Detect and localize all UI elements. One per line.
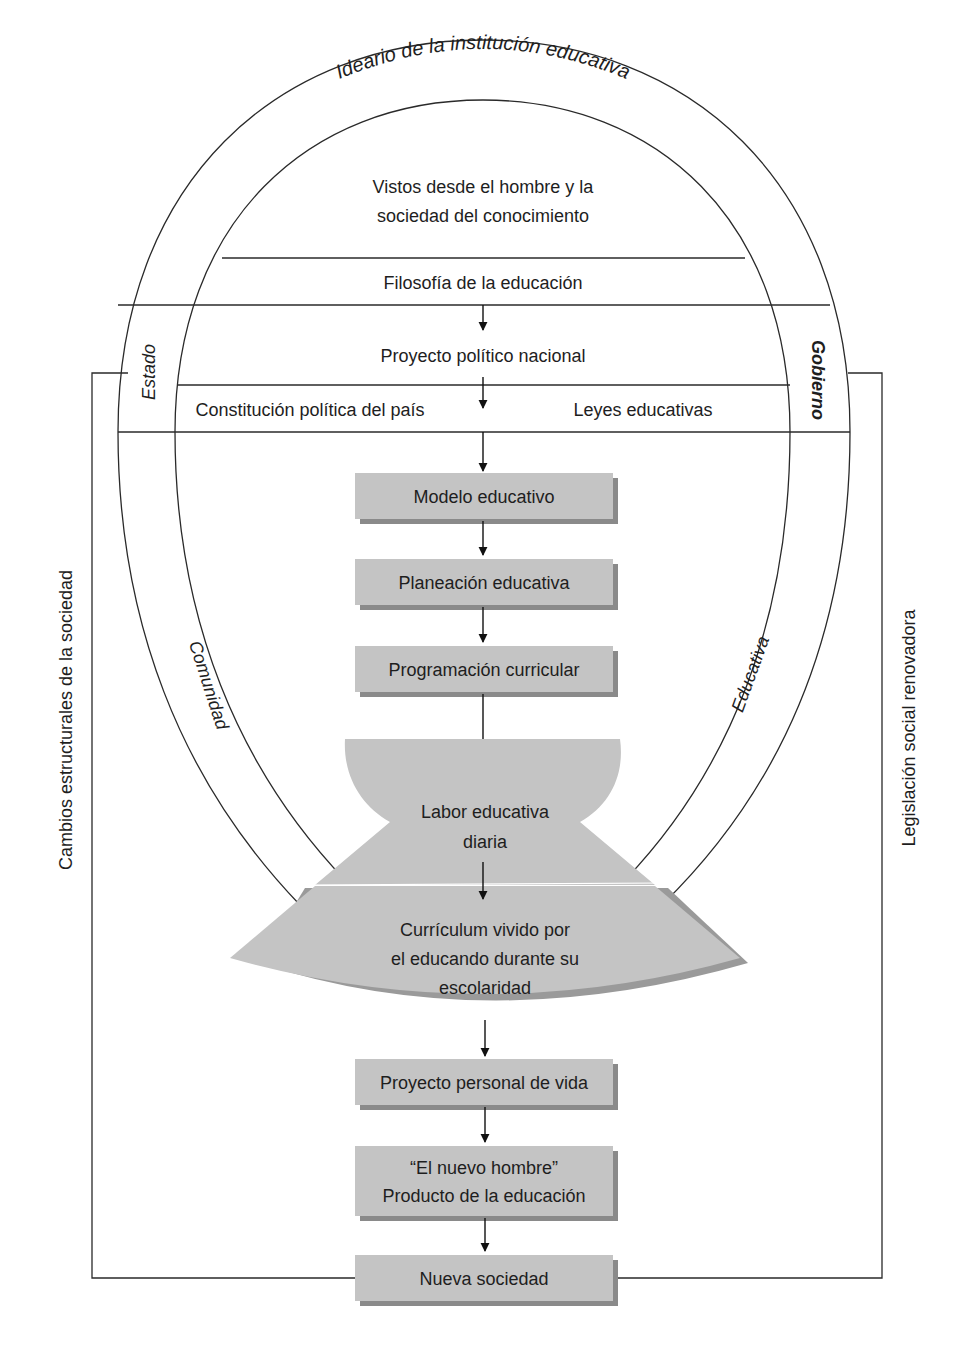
- curriculum-line-2: el educando durante su: [391, 949, 579, 969]
- outer-bracket-left: [92, 373, 356, 1278]
- curriculum-line-3: escolaridad: [439, 978, 531, 998]
- svg-text:Modelo educativo: Modelo educativo: [413, 487, 554, 507]
- svg-text:“El nuevo hombre”: “El nuevo hombre”: [410, 1158, 558, 1178]
- constitution-label: Constitución política del país: [195, 400, 424, 420]
- curriculum-line-1: Currículum vivido por: [400, 920, 570, 940]
- svg-text:Planeación educativa: Planeación educativa: [398, 573, 570, 593]
- box-proyecto-personal: Proyecto personal de vida: [355, 1059, 618, 1110]
- labor-line-1: Labor educativa: [421, 802, 550, 822]
- arc-title: Ideario de la institución educativa: [332, 31, 633, 83]
- right-side-label: Legislación social renovadora: [899, 608, 919, 846]
- svg-text:Programación curricular: Programación curricular: [388, 660, 579, 680]
- box-nuevo-hombre: “El nuevo hombre” Producto de la educaci…: [355, 1146, 618, 1221]
- gobierno-label: Gobierno: [808, 340, 828, 420]
- estado-label: Estado: [139, 344, 159, 400]
- national-project-label: Proyecto político nacional: [380, 346, 585, 366]
- education-model-diagram: Ideario de la institución educativa Vist…: [0, 0, 965, 1357]
- philosophy-label: Filosofía de la educación: [383, 273, 582, 293]
- box-programacion-curricular: Programación curricular: [355, 646, 618, 697]
- svg-text:Nueva sociedad: Nueva sociedad: [419, 1269, 548, 1289]
- svg-text:Proyecto personal de vida: Proyecto personal de vida: [380, 1073, 589, 1093]
- worldview-line-2: sociedad del conocimiento: [377, 206, 589, 226]
- box-modelo-educativo: Modelo educativo: [355, 473, 618, 524]
- left-side-label: Cambios estructurales de la sociedad: [56, 570, 76, 870]
- box-planeacion-educativa: Planeación educativa: [355, 559, 618, 610]
- box-nueva-sociedad: Nueva sociedad: [355, 1255, 618, 1306]
- laws-label: Leyes educativas: [573, 400, 712, 420]
- svg-text:Producto de la educación: Producto de la educación: [382, 1186, 585, 1206]
- outer-bracket-right: [616, 373, 882, 1278]
- educativa-label: Educativa: [727, 633, 773, 714]
- worldview-line-1: Vistos desde el hombre y la: [373, 177, 595, 197]
- comunidad-label: Comunidad: [185, 638, 233, 733]
- labor-line-2: diaria: [463, 832, 508, 852]
